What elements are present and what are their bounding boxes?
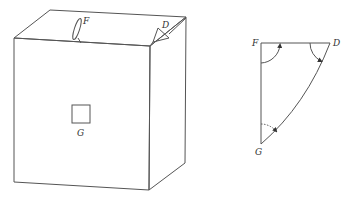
- label-f-tri: F: [251, 38, 259, 48]
- label-f-cube: F: [82, 16, 90, 26]
- angle-g-arc: [261, 124, 276, 131]
- diagram-canvas: F D G F D G: [0, 0, 349, 199]
- edge-dg: [261, 43, 330, 144]
- angle-d-arc: [310, 43, 321, 61]
- label-d-tri: D: [332, 38, 340, 48]
- label-g-cube: G: [77, 128, 84, 138]
- angle-f-arc: [261, 45, 280, 63]
- lens-f: F: [71, 16, 90, 43]
- spherical-triangle: F D G: [251, 38, 340, 157]
- window-g: G: [72, 105, 90, 138]
- lens-f-icon: [71, 18, 83, 41]
- cube-right-face: [149, 17, 186, 190]
- prism-d-icon: [153, 28, 169, 42]
- label-d-cube: D: [161, 20, 169, 30]
- cube-front-face: [14, 38, 150, 190]
- label-g-tri: G: [255, 147, 262, 157]
- cube: F D G: [14, 10, 186, 190]
- window-g-icon: [72, 105, 90, 123]
